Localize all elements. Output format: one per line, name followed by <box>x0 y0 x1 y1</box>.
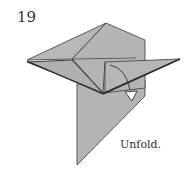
instruction-caption: Unfold. <box>120 138 161 151</box>
origami-diagram <box>0 0 193 171</box>
